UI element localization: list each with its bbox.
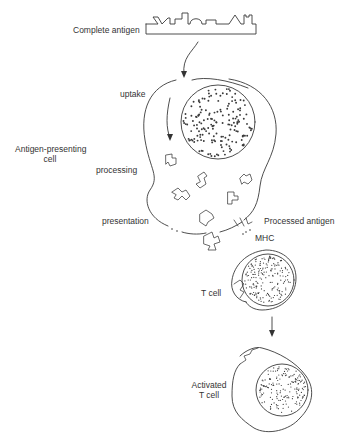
mhc-antigen-complex — [204, 218, 252, 250]
t-cell-nucleus-dots — [244, 256, 290, 303]
uptake-arrow — [181, 42, 198, 78]
activated-t-cell — [232, 347, 312, 431]
apc-nucleus — [181, 85, 255, 159]
label-mhc: MHC — [255, 233, 274, 243]
antigen-presentation-diagram: Complete antigen uptake Antigen-presenti… — [0, 0, 344, 443]
nucleus-chromatin-dots — [183, 88, 253, 157]
label-complete-antigen: Complete antigen — [73, 25, 140, 35]
label-processing: processing — [96, 165, 137, 175]
antigen-presenting-cell-membrane — [144, 78, 276, 234]
label-processed-antigen: Processed antigen — [264, 216, 334, 226]
label-activated-line2: T cell — [186, 390, 232, 400]
activated-nucleus-dots — [259, 366, 306, 413]
label-uptake: uptake — [120, 89, 146, 99]
label-t-cell: T cell — [201, 288, 221, 298]
t-cell — [232, 250, 296, 337]
label-presentation: presentation — [102, 216, 149, 226]
label-activated-t-cell: Activated T cell — [186, 380, 232, 400]
processed-antigen-fragments — [166, 154, 252, 226]
label-antigen-presenting-cell: Antigen-presenting cell — [15, 144, 85, 164]
label-activated-line1: Activated — [186, 380, 232, 390]
complete-antigen-shape — [146, 13, 256, 34]
label-apc-line1: Antigen-presenting — [15, 144, 85, 154]
label-apc-line2: cell — [15, 154, 85, 164]
